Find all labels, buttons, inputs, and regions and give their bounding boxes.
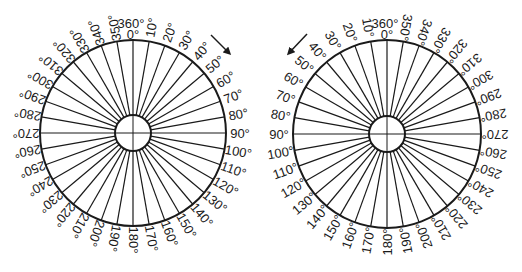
label-0: 0° <box>381 27 393 42</box>
spoke-10 <box>136 41 149 115</box>
spoke-250 <box>46 139 116 165</box>
spoke-290 <box>46 101 116 127</box>
label-70: 70° <box>222 86 246 107</box>
counterclockwise-dial: 360°0°10°20°30°40°50°60°70°80°90°100°110… <box>266 13 508 255</box>
label-190: 190° <box>105 224 124 253</box>
spoke-100 <box>151 136 225 149</box>
label-270: 270° <box>482 127 509 142</box>
label-180: 180° <box>126 227 141 254</box>
spoke-280 <box>405 118 480 131</box>
spoke-70 <box>150 101 220 127</box>
label-0: 0° <box>127 27 139 42</box>
label-90: 90° <box>230 126 250 141</box>
label-10: 10° <box>359 17 377 39</box>
label-170: 170° <box>359 226 378 255</box>
label-80: 80° <box>270 106 292 124</box>
spoke-160 <box>355 151 381 222</box>
clockwise-dial: 360°0°10°20°30°40°50°60°70°80°90°100°110… <box>13 13 253 253</box>
spoke-100 <box>294 137 369 150</box>
label-260: 260° <box>479 143 508 162</box>
spoke-160 <box>139 150 165 220</box>
label-190: 190° <box>396 226 415 255</box>
spoke-70 <box>299 102 370 128</box>
spoke-250 <box>404 140 475 166</box>
label-170: 170° <box>142 224 161 253</box>
spoke-350 <box>390 41 403 116</box>
spoke-10 <box>371 41 384 116</box>
spoke-260 <box>41 136 115 149</box>
label-80: 80° <box>227 105 249 123</box>
spoke-80 <box>151 117 225 130</box>
dials-figure: 360°0°10°20°30°40°50°60°70°80°90°100°110… <box>0 0 522 272</box>
direction-arrow-icon <box>289 34 307 53</box>
spoke-110 <box>150 139 220 165</box>
spoke-200 <box>393 151 419 222</box>
label-350: 350° <box>396 13 415 42</box>
label-10: 10° <box>142 17 160 39</box>
spoke-190 <box>390 152 403 227</box>
spoke-350 <box>117 41 130 115</box>
spoke-260 <box>405 137 480 150</box>
spoke-290 <box>404 102 475 128</box>
spoke-20 <box>355 46 381 117</box>
spoke-170 <box>136 151 149 225</box>
spoke-80 <box>294 118 369 131</box>
label-280: 280° <box>479 106 508 125</box>
direction-arrow-icon <box>211 35 229 53</box>
spoke-340 <box>393 46 419 117</box>
label-260: 260° <box>13 142 42 161</box>
label-180: 180° <box>380 229 395 256</box>
spoke-190 <box>117 151 130 225</box>
label-280: 280° <box>13 105 42 124</box>
label-270: 270° <box>13 126 40 141</box>
spoke-170 <box>371 152 384 227</box>
label-100: 100° <box>266 143 295 162</box>
label-100: 100° <box>224 142 253 161</box>
spoke-200 <box>101 150 127 220</box>
spoke-340 <box>101 46 127 116</box>
label-90: 90° <box>269 127 289 142</box>
label-70: 70° <box>274 87 298 108</box>
spoke-280 <box>41 117 115 130</box>
spoke-110 <box>299 140 370 166</box>
spoke-20 <box>139 46 165 116</box>
